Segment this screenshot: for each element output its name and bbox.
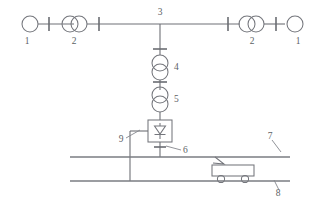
- label-source-right: 1: [296, 36, 301, 46]
- transformer-right-winding-1-icon: [239, 16, 255, 32]
- label-transformer-right: 2: [250, 36, 255, 46]
- schematic-svg: 1 2 3 4 5 6 9 7 8 2 1: [0, 0, 322, 201]
- hv-bus-group: [22, 16, 303, 32]
- label-transformer-step1: 4: [174, 62, 179, 72]
- label-transformer-step2: 5: [174, 94, 179, 104]
- leader-label-7: [272, 140, 281, 152]
- rectifier-diode-icon: [155, 123, 166, 139]
- label-transformer-left: 2: [72, 36, 77, 46]
- pantograph-icon: [213, 157, 224, 164]
- label-busbar-node: 3: [158, 7, 163, 17]
- leader-label-6: [166, 146, 181, 150]
- return-feeder-group: [130, 131, 148, 181]
- power-source-right-icon: [287, 16, 303, 32]
- transformer-5-winding-2-icon: [152, 96, 168, 112]
- transformer-4-winding-2-icon: [152, 64, 168, 80]
- track-group: [70, 157, 290, 181]
- diagram-canvas: 1 2 3 4 5 6 9 7 8 2 1: [0, 0, 322, 201]
- label-source-left: 1: [25, 36, 30, 46]
- label-feeder-cable: 6: [183, 145, 188, 155]
- power-source-left-icon: [22, 16, 38, 32]
- electric-vehicle-group: [212, 157, 254, 183]
- label-running-rail: 8: [276, 188, 281, 198]
- vehicle-body-icon: [212, 165, 254, 176]
- label-return-feeder: 9: [119, 134, 124, 144]
- label-catenary-contact-wire: 7: [268, 131, 273, 141]
- transformer-right-winding-2-icon: [248, 16, 264, 32]
- transformer-4-winding-1-icon: [152, 55, 168, 71]
- feeder-branch-group: [148, 24, 172, 157]
